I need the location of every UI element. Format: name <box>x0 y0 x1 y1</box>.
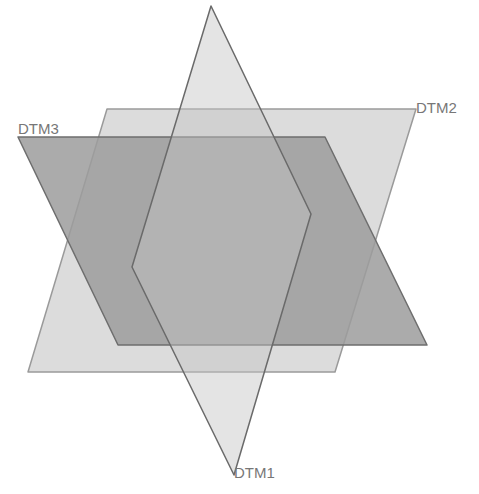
dtm-planes-diagram: DTM2 DTM3 DTM1 <box>0 0 479 494</box>
plane-dtm1 <box>132 6 311 475</box>
label-dtm1: DTM1 <box>234 464 275 481</box>
label-dtm2: DTM2 <box>416 99 457 116</box>
label-dtm3: DTM3 <box>18 120 59 137</box>
